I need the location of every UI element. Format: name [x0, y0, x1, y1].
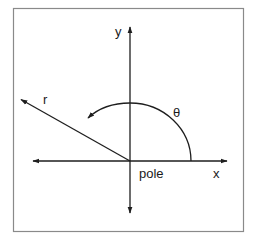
pole-label: pole — [139, 166, 164, 181]
y-axis-label: y — [115, 24, 122, 39]
theta-label: θ — [173, 105, 180, 120]
polar-coordinate-diagram: y x r θ pole — [0, 0, 253, 246]
x-axis-label: x — [213, 166, 220, 181]
diagram-border — [14, 9, 244, 232]
radius-label: r — [43, 92, 48, 107]
